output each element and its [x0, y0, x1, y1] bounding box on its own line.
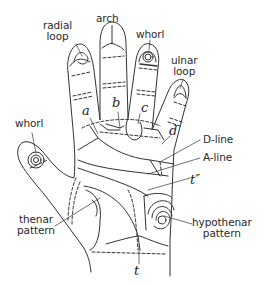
label-thenar-line2: pattern [17, 225, 55, 236]
triradius-b: b [112, 96, 120, 109]
label-d-line: D-line [203, 134, 233, 145]
hand-outline [18, 22, 189, 276]
label-ulnar-loop-line2: loop [171, 66, 197, 77]
label-arch: arch [96, 13, 119, 24]
label-thenar-pattern: thenar pattern [17, 214, 55, 236]
hand-dermatoglyphics-diagram: radial loop arch whorl ulnar loop whorl … [0, 0, 263, 286]
label-whorl-ring: whorl [136, 29, 164, 40]
label-radial-loop-line2: loop [43, 31, 72, 42]
triradius-c: c [141, 101, 148, 114]
triradius-t: t [134, 264, 139, 277]
triradius-d: d [169, 124, 177, 137]
label-radial-loop: radial loop [43, 20, 72, 42]
triradius-a: a [82, 104, 90, 117]
label-whorl-thumb: whorl [15, 118, 43, 129]
label-hypothenar-line2: pattern [192, 228, 252, 239]
triradius-t-double-prime: t″ [190, 173, 200, 186]
label-hypothenar-pattern: hypothenar pattern [192, 217, 252, 239]
label-a-line: A-line [203, 152, 232, 163]
label-ulnar-loop: ulnar loop [171, 55, 197, 77]
